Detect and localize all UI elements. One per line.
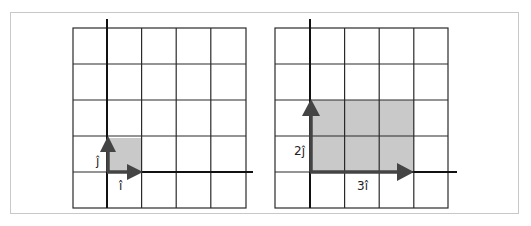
left-grid bbox=[73, 28, 246, 208]
basis-scaling-diagram: ĵ î 2ĵ 3î bbox=[0, 0, 531, 226]
left-i-hat-label: î bbox=[118, 179, 123, 193]
left-panel: ĵ î bbox=[73, 19, 253, 208]
right-2j-hat-label: 2ĵ bbox=[294, 144, 306, 158]
left-shaded-unit-square bbox=[107, 138, 142, 173]
left-j-hat-label: ĵ bbox=[95, 154, 100, 168]
right-panel: 2ĵ 3î bbox=[275, 19, 457, 208]
right-3i-hat-label: 3î bbox=[357, 179, 369, 193]
